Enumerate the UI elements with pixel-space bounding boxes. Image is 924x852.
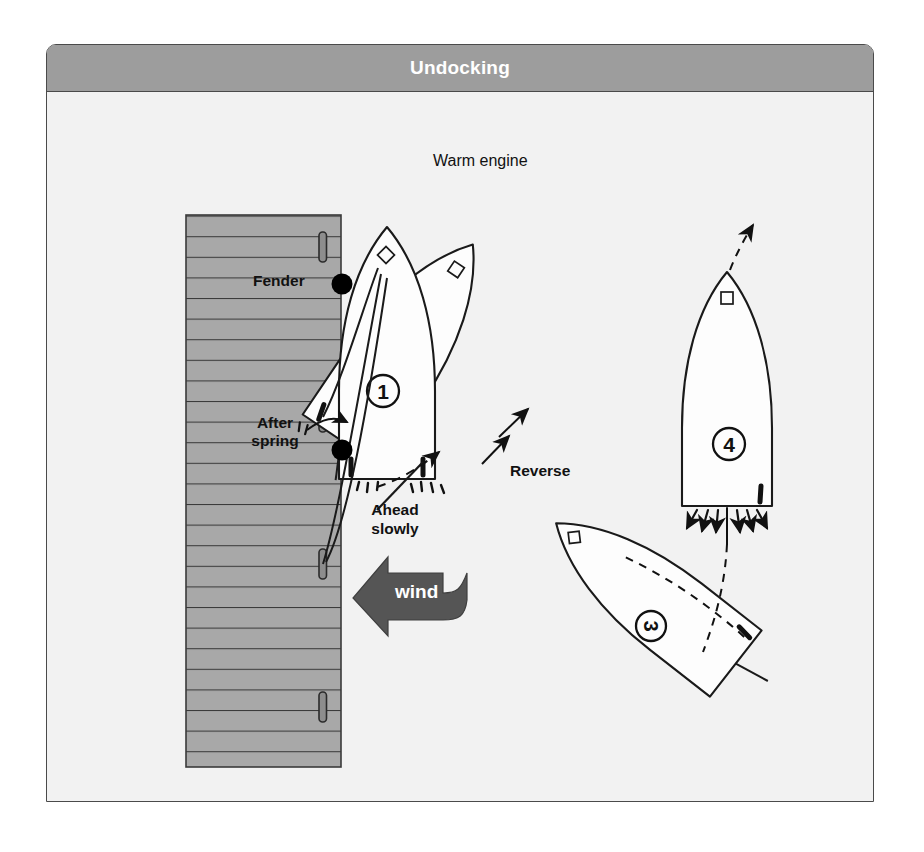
boat-3-number-badge: 3	[636, 611, 666, 641]
svg-text:3: 3	[640, 620, 662, 631]
boat-4-propwash	[687, 508, 767, 544]
undocking-diagram-panel: Undocking	[46, 44, 874, 802]
fender-dot-forward	[332, 274, 353, 295]
diagram-canvas: 2	[47, 92, 873, 801]
svg-text:1: 1	[377, 380, 389, 403]
ahead-slowly-propwash	[357, 482, 444, 493]
boat-3-rudder	[736, 659, 768, 686]
screenshot-root: Undocking	[0, 0, 924, 852]
bollard-4	[319, 692, 327, 722]
dock-pier	[186, 215, 341, 767]
label-after-spring-line2: spring	[227, 433, 323, 450]
reverse-arrow-group	[482, 409, 528, 464]
label-reverse: Reverse	[510, 463, 570, 480]
label-warm-engine: Warm engine	[433, 152, 528, 169]
boat-4-number-badge: 4	[713, 428, 745, 460]
label-wind: wind	[395, 581, 438, 603]
dock-decking	[186, 215, 341, 767]
fender-dot-aft	[332, 440, 353, 461]
svg-text:4: 4	[723, 433, 735, 456]
departure-track-arrow	[730, 225, 753, 270]
bollard-1	[319, 232, 327, 262]
boat-4-cleat-stbd	[760, 486, 761, 502]
boat-1-hull	[339, 227, 435, 479]
label-ahead-slowly-line1: Ahead	[347, 502, 443, 519]
label-ahead-slowly-line2: slowly	[347, 521, 443, 538]
boat-4-hull	[682, 272, 772, 506]
reverse-arrow-lower	[482, 436, 509, 464]
panel-title-bar: Undocking	[47, 45, 873, 92]
boat-1: 1	[339, 227, 435, 479]
boat-4: 4	[682, 272, 772, 506]
page-title: Undocking	[410, 57, 510, 79]
label-fender: Fender	[253, 273, 305, 290]
reverse-arrow-upper	[499, 409, 528, 437]
label-after-spring-line1: After	[227, 415, 323, 432]
